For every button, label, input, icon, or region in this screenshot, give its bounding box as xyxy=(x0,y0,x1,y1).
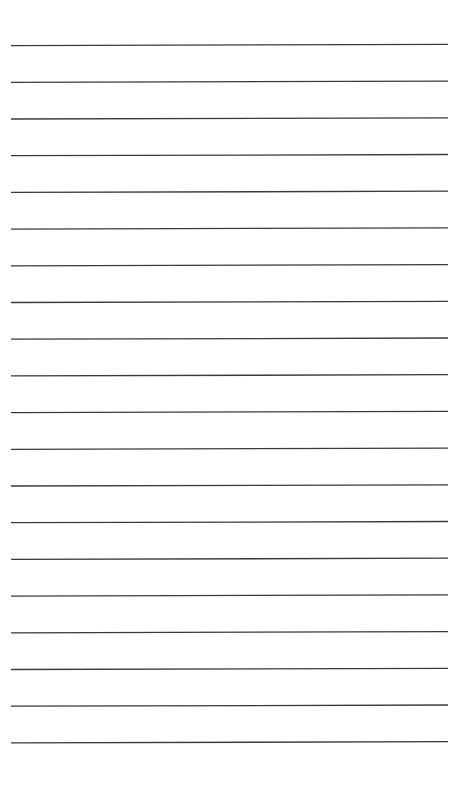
ruled-line xyxy=(11,448,448,449)
ruled-line xyxy=(11,228,448,229)
ruled-line xyxy=(11,705,448,706)
ruled-line xyxy=(11,411,448,412)
ruled-line xyxy=(11,155,448,156)
ruled-lines xyxy=(0,0,467,788)
ruled-line xyxy=(11,742,448,743)
ruled-line xyxy=(11,265,448,266)
ruled-line xyxy=(11,522,448,523)
ruled-line xyxy=(11,338,448,339)
ruled-line xyxy=(11,558,448,559)
ruled-line xyxy=(11,632,448,633)
ruled-line xyxy=(11,375,448,376)
lined-paper-page xyxy=(0,0,467,788)
ruled-line xyxy=(11,595,448,596)
ruled-line xyxy=(11,81,448,82)
ruled-line xyxy=(11,44,448,45)
ruled-line xyxy=(11,191,448,192)
ruled-line xyxy=(11,668,448,669)
ruled-line xyxy=(11,118,448,119)
ruled-line xyxy=(11,301,448,302)
ruled-line xyxy=(11,485,448,486)
